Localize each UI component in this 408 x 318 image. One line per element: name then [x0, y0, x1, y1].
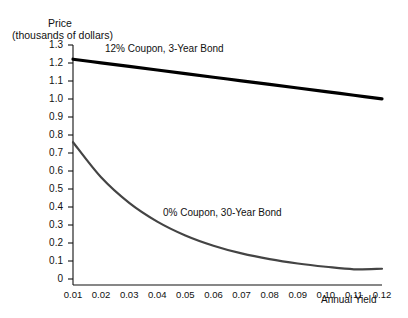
- y-tick-label: 1.1: [37, 76, 63, 86]
- series-line-1: [73, 142, 382, 269]
- y-tick-label: 0.5: [37, 184, 63, 194]
- series-line-0: [73, 59, 382, 99]
- y-axis-ticks: [68, 45, 73, 279]
- y-tick-label: 1.0: [37, 94, 63, 104]
- y-tick-label: 0.4: [37, 202, 63, 212]
- y-tick-label: 0.3: [37, 220, 63, 230]
- y-tick-label: 0.6: [37, 166, 63, 176]
- y-tick-label: 0.8: [37, 130, 63, 140]
- y-tick-label: 0.1: [37, 256, 63, 266]
- y-tick-label: 1.3: [37, 40, 63, 50]
- y-tick-label: 0.9: [37, 112, 63, 122]
- data-series-group: [73, 59, 382, 269]
- chart-figure: Price (thousands of dollars) Annual Yiel…: [0, 0, 408, 318]
- y-tick-label: 0.7: [37, 148, 63, 158]
- y-tick-label: 0.2: [37, 238, 63, 248]
- y-axis-title: Price: [48, 18, 72, 29]
- series-annotation-12-coupon: 12% Coupon, 3-Year Bond: [105, 44, 224, 54]
- x-tick-label: 0.12: [365, 290, 399, 300]
- y-tick-label: 1.2: [37, 58, 63, 68]
- series-annotation-0-coupon: 0% Coupon, 30-Year Bond: [163, 208, 282, 218]
- y-tick-label: 0: [37, 274, 63, 284]
